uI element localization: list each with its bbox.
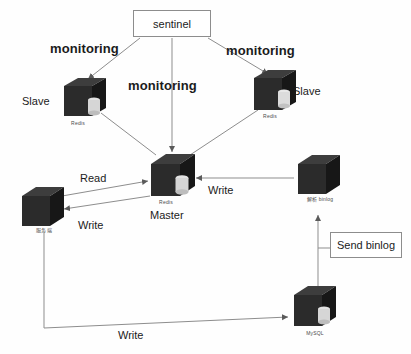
server-caption-app: 服务端 (26, 226, 62, 233)
server-icon (288, 282, 344, 334)
edge-label-monitoring-left: monitoring (50, 42, 119, 55)
server-caption-slave-right: Redis (254, 113, 286, 119)
server-icon (145, 150, 203, 204)
server-icon (294, 152, 346, 200)
server-icon (18, 184, 70, 232)
edge-bottom-write-mysql (44, 317, 288, 328)
edge-label-read: Read (80, 173, 106, 184)
edge-master-write-app (64, 196, 150, 209)
server-caption-mysql: MySQL (295, 330, 335, 336)
send-binlog-label: Send binlog (337, 239, 395, 251)
server-caption-binlog-parser: 解析 binlog (295, 195, 345, 202)
edge-label-write-master: Write (208, 185, 233, 196)
diagram-canvas: sentinel Send binlog Redis Slave Redis S… (0, 0, 411, 354)
role-label-master: Master (150, 210, 184, 221)
server-caption-slave-left: Redis (62, 120, 94, 126)
edge-label-monitoring-right: monitoring (226, 44, 295, 57)
edge-label-monitoring-center: monitoring (128, 79, 197, 92)
send-binlog-box[interactable]: Send binlog (330, 232, 402, 258)
server-icon (58, 74, 114, 124)
server-caption-master: Redis (150, 199, 182, 205)
edge-label-write-app: Write (78, 220, 103, 231)
sentinel-label: sentinel (153, 18, 191, 30)
role-label-slave-right: Slave (293, 86, 321, 97)
role-label-slave-left: Slave (22, 96, 50, 107)
sentinel-box[interactable]: sentinel (133, 10, 211, 37)
edge-label-write-bottom: Write (118, 330, 143, 341)
